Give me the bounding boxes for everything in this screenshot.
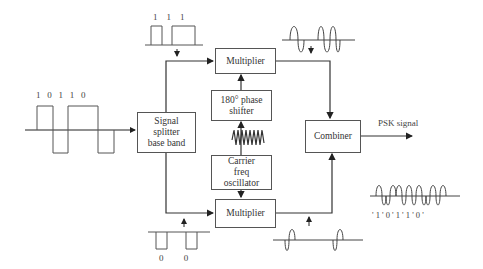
top-carrier-burst xyxy=(282,27,355,54)
psk-signal-label: PSK signal xyxy=(378,118,418,128)
wire-top-multiplier-to-combiner xyxy=(275,61,330,118)
carrier-oscillator-block: Carrier freq oscillator xyxy=(211,155,272,190)
input-bipolar-waveform xyxy=(25,106,135,153)
psk-bits-label: ' 1 ' 0 ' 1 ' 1 ' 0 ' xyxy=(372,210,424,220)
wire-bottom-multiplier-to-combiner xyxy=(275,154,332,213)
bottom-carrier-burst xyxy=(273,217,363,251)
input-bits-label: 1 0 1 1 0 xyxy=(36,90,86,100)
psk-output-waveform xyxy=(370,186,460,206)
diagram-wires xyxy=(0,0,483,269)
bottom-multiplier-block: Multiplier xyxy=(215,199,276,228)
top-multiplier-block: Multiplier xyxy=(215,48,276,74)
bottom-bits-label: 0 0 xyxy=(159,253,188,263)
top-branch-pulses xyxy=(145,26,203,56)
combiner-block: Combiner xyxy=(305,120,361,153)
carrier-wave-glyph xyxy=(232,130,264,145)
top-bits-label: 1 1 1 xyxy=(153,12,185,22)
psk-modulator-diagram: 1 0 1 1 0 1 1 1 0 0 PSK signal ' 1 ' 0 '… xyxy=(0,0,483,269)
wire-splitter-to-bottom-multiplier xyxy=(166,152,213,213)
wire-splitter-to-top-multiplier xyxy=(166,61,213,112)
bottom-branch-pulses xyxy=(148,219,210,249)
phase-shifter-block: 180° phase shifter xyxy=(211,90,272,121)
signal-splitter-block: Signal splitter base band xyxy=(137,112,196,153)
